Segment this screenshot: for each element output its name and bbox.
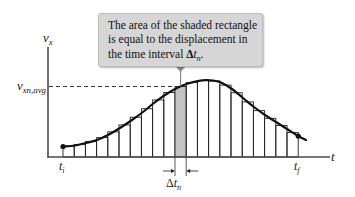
average-velocity-label: vxn,avg: [17, 79, 46, 95]
arrow-right-icon: [171, 169, 175, 173]
callout-line-2: is equal to the displacement in: [108, 32, 262, 46]
callout-line-3: the time interval Δtn.: [108, 47, 262, 66]
rectangle: [85, 142, 96, 157]
rectangle: [265, 118, 276, 157]
start-point-dot: [60, 144, 65, 149]
x-axis-label: t: [331, 150, 335, 163]
rectangle: [153, 100, 164, 157]
rectangle: [130, 117, 141, 157]
velocity-time-graph: The area of the shaded rectangle is equa…: [0, 0, 355, 197]
rectangle: [186, 83, 197, 157]
rectangle: [276, 125, 287, 157]
final-time-label: tf: [294, 160, 300, 175]
end-point-dot: [296, 134, 301, 139]
explanation-callout: The area of the shaded rectangle is equa…: [98, 13, 263, 67]
rectangle: [231, 93, 242, 157]
rectangle: [220, 85, 231, 157]
y-axis-label: vx: [43, 31, 53, 47]
callout-line-1: The area of the shaded rectangle: [108, 18, 262, 32]
rectangle: [253, 111, 264, 157]
rectangle: [141, 109, 152, 157]
rectangle: [119, 125, 130, 157]
rectangle: [108, 132, 119, 157]
time-interval-label: Δtn: [166, 177, 181, 192]
interval-dimension-marker: [163, 157, 198, 176]
rectangle: [164, 92, 175, 157]
shaded-rectangle: [175, 87, 186, 157]
rectangle: [209, 81, 220, 157]
rectangle: [242, 102, 253, 157]
rectangle: [197, 80, 208, 157]
rectangles-group: [63, 80, 298, 157]
initial-time-label: ti: [59, 160, 65, 175]
arrow-left-icon: [186, 169, 190, 173]
